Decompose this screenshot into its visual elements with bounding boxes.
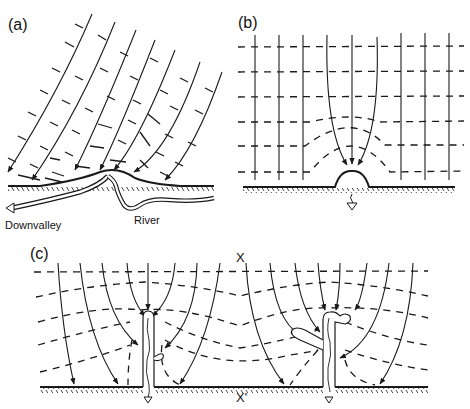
panel-a: (a) xyxy=(5,14,222,231)
panel-a-label: (a) xyxy=(8,16,28,33)
panel-c-flow-lines xyxy=(58,263,413,384)
panel-a-flow-lines xyxy=(8,14,222,180)
river-label: River xyxy=(134,214,160,226)
groundwater-flow-diagram: (a) xyxy=(0,0,470,409)
panel-c-label: (c) xyxy=(30,245,49,262)
left-outflow-arrow-icon xyxy=(144,397,152,403)
right-outflow-arrow-icon xyxy=(325,397,333,403)
panel-c-equipotential-lines xyxy=(34,271,428,385)
downvalley-label: Downvalley xyxy=(5,219,62,231)
panel-c: (c) X X' xyxy=(30,245,428,405)
panel-c-ground-surface xyxy=(40,387,428,393)
downvalley-arrow-icon xyxy=(6,203,14,213)
panel-a-river xyxy=(6,176,214,213)
panel-b-flow-lines xyxy=(255,33,449,180)
panel-b-outflow-arrow-icon xyxy=(347,194,357,210)
panel-b-ground-surface xyxy=(243,171,455,193)
panel-b: (b) xyxy=(238,14,464,210)
panel-b-label: (b) xyxy=(238,14,258,31)
panel-b-equipotential-lines xyxy=(238,46,464,172)
section-top-label: X xyxy=(236,250,245,265)
